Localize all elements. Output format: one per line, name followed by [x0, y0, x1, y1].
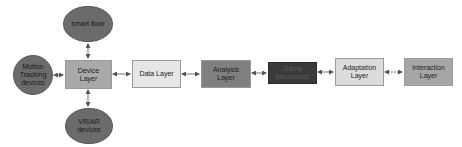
analysis-layer-node: Analysis Layer: [201, 60, 251, 88]
motion-label-3: devices: [21, 79, 45, 87]
device-layer-node: Device Layer: [65, 60, 112, 89]
interaction-label-1: Interaction: [412, 64, 445, 72]
game-mechanics-node: Game Mechanics: [268, 62, 317, 84]
motion-label-1: Motion: [22, 63, 43, 71]
vrar-label-1: VR/AR: [78, 118, 99, 126]
game-label-2: Mechanics: [276, 73, 309, 81]
adaptation-label-2: Layer: [351, 72, 369, 80]
smart-floor-label: smart floor: [71, 20, 104, 28]
game-label-1: Game: [283, 65, 302, 73]
adaptation-label-1: Adaptation: [343, 64, 376, 72]
device-label-2: Layer: [80, 75, 98, 83]
vrar-node: VR/AR devices: [65, 108, 113, 144]
vrar-label-2: devices: [77, 126, 101, 134]
data-label: Data Layer: [139, 70, 173, 78]
analysis-label-2: Layer: [217, 74, 235, 82]
motion-tracking-node: Motion Tracking devices: [13, 55, 53, 95]
data-layer-node: Data Layer: [132, 60, 181, 88]
analysis-label-1: Analysis: [213, 66, 239, 74]
interaction-layer-node: Interaction Layer: [404, 58, 453, 86]
smart-floor-node: smart floor: [63, 6, 113, 42]
device-label-1: Device: [78, 67, 99, 75]
interaction-label-2: Layer: [420, 72, 438, 80]
adaptation-layer-node: Adaptation Layer: [335, 58, 384, 86]
motion-label-2: Tracking: [20, 71, 47, 79]
